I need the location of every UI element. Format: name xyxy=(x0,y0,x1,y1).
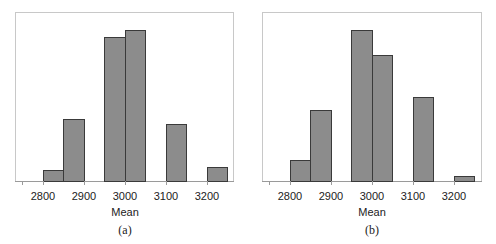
x-tick xyxy=(372,181,373,185)
x-tick xyxy=(413,181,414,185)
x-axis-label: Mean xyxy=(342,206,402,218)
x-tick xyxy=(269,181,270,185)
histogram-bar xyxy=(290,160,312,182)
histogram-bar xyxy=(310,110,332,182)
histogram-bar xyxy=(454,176,476,182)
x-tick xyxy=(22,181,23,185)
histogram-bar xyxy=(166,124,188,182)
x-tick xyxy=(454,181,455,185)
panel-caption: (b) xyxy=(352,223,392,238)
x-tick xyxy=(84,181,85,185)
panel-caption: (a) xyxy=(105,223,145,238)
tick-label: 3200 xyxy=(187,190,227,202)
tick-label: 3100 xyxy=(146,190,186,202)
tick-label: 3100 xyxy=(393,190,433,202)
histogram-bar xyxy=(207,167,229,182)
tick-label: 3000 xyxy=(352,190,392,202)
histogram-bar xyxy=(351,30,373,182)
tick-label: 3000 xyxy=(105,190,145,202)
x-tick xyxy=(331,181,332,185)
tick-label: 2900 xyxy=(311,190,351,202)
tick-label: 2800 xyxy=(270,190,310,202)
histogram-panel-b: 2800 2900 3000 3100 3200 Mean (b) xyxy=(248,0,496,244)
histogram-bar xyxy=(43,170,65,182)
histogram-panel-a: 2800 2900 3000 3100 3200 Mean (a) xyxy=(0,0,248,244)
x-tick xyxy=(125,181,126,185)
x-tick xyxy=(43,181,44,185)
x-axis-label: Mean xyxy=(95,206,155,218)
histogram-bar xyxy=(413,97,435,182)
histogram-bar xyxy=(372,55,394,182)
tick-label: 2800 xyxy=(23,190,63,202)
histogram-bar xyxy=(125,30,147,182)
histogram-bar xyxy=(63,119,85,182)
tick-label: 2900 xyxy=(64,190,104,202)
x-tick xyxy=(166,181,167,185)
x-tick xyxy=(290,181,291,185)
tick-label: 3200 xyxy=(434,190,474,202)
histogram-bar xyxy=(104,37,126,182)
x-tick xyxy=(207,181,208,185)
